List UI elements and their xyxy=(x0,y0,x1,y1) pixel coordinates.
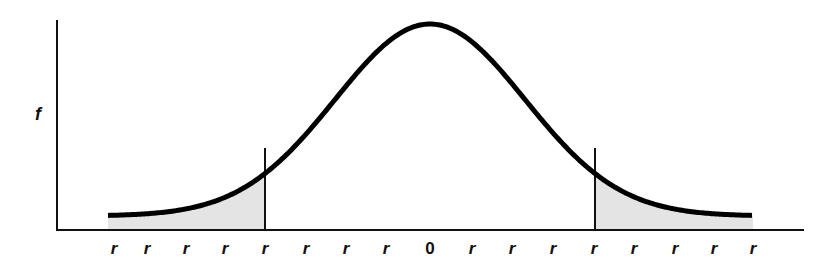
tick-label-r: r xyxy=(262,240,269,257)
tick-label-r: r xyxy=(222,240,229,257)
tick-label-r: r xyxy=(550,240,557,257)
tick-label-zero: 0 xyxy=(425,240,434,257)
tick-label-r: r xyxy=(183,240,190,257)
tick-label-r: r xyxy=(711,240,718,257)
tick-label-r: r xyxy=(383,240,390,257)
tick-label-r: r xyxy=(591,240,598,257)
tick-label-r: r xyxy=(303,240,310,257)
tick-label-r: r xyxy=(509,240,516,257)
tick-label-r: r xyxy=(631,240,638,257)
left-tail-shade xyxy=(108,174,265,229)
tick-label-r: r xyxy=(144,240,151,257)
tick-label-r: r xyxy=(343,240,350,257)
tick-label-r: r xyxy=(111,240,118,257)
right-tail-shade xyxy=(595,174,753,229)
y-axis-label: f xyxy=(35,104,41,125)
tick-label-r: r xyxy=(469,240,476,257)
tick-label-r: r xyxy=(672,240,679,257)
bell-curve xyxy=(108,24,752,215)
tick-label-r: r xyxy=(750,240,757,257)
bell-curve-diagram xyxy=(0,0,835,267)
